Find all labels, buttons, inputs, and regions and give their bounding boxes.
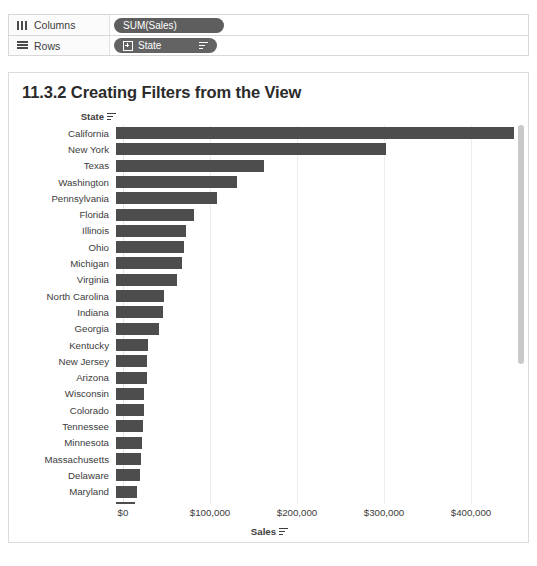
bar[interactable] bbox=[116, 225, 186, 237]
bar-row-label[interactable]: Georgia bbox=[9, 323, 116, 334]
bar-row-label[interactable]: New Jersey bbox=[9, 356, 116, 367]
bar-row[interactable]: Arizona bbox=[9, 370, 529, 386]
bar-row-label[interactable]: Delaware bbox=[9, 470, 116, 481]
bar-row[interactable]: Virginia bbox=[9, 272, 529, 288]
bar-row[interactable]: New York bbox=[9, 141, 529, 157]
bar-row-label[interactable]: Washington bbox=[9, 177, 116, 188]
bar-track bbox=[116, 190, 529, 206]
x-axis-tick-label: $200,000 bbox=[277, 507, 317, 518]
page-title: 11.3.2 Creating Filters from the View bbox=[22, 83, 301, 102]
bar-row[interactable]: Washington bbox=[9, 174, 529, 190]
bar[interactable] bbox=[116, 404, 144, 416]
columns-shelf-dropzone[interactable]: SUM(Sales) bbox=[109, 15, 528, 35]
bar-row-label[interactable]: Virginia bbox=[9, 274, 116, 285]
pill-state[interactable]: State bbox=[114, 38, 217, 53]
bar[interactable] bbox=[116, 209, 194, 221]
x-axis-title[interactable]: Sales bbox=[9, 526, 529, 537]
bar-row-label[interactable]: California bbox=[9, 128, 116, 139]
bar-row-label[interactable]: Florida bbox=[9, 209, 116, 220]
bar-row-label[interactable]: Colorado bbox=[9, 405, 116, 416]
bar[interactable] bbox=[116, 176, 237, 188]
bar-row-label[interactable]: Tennessee bbox=[9, 421, 116, 432]
bar[interactable] bbox=[116, 388, 144, 400]
rows-shelf[interactable]: Rows State bbox=[8, 35, 529, 56]
bar-row-label[interactable]: Kentucky bbox=[9, 340, 116, 351]
bar-track bbox=[116, 141, 529, 157]
bar-row[interactable]: Maryland bbox=[9, 484, 529, 500]
x-axis[interactable]: $0$100,000$200,000$300,000$400,000 Sales bbox=[9, 504, 529, 543]
bar-track bbox=[116, 451, 529, 467]
bar[interactable] bbox=[116, 257, 182, 269]
bar-row-label[interactable]: North Carolina bbox=[9, 291, 116, 302]
bar-row[interactable]: Georgia bbox=[9, 321, 529, 337]
pill-sum-sales-label: SUM(Sales) bbox=[123, 20, 177, 31]
bar[interactable] bbox=[116, 469, 140, 481]
x-axis-tick-label: $400,000 bbox=[451, 507, 491, 518]
bar-row[interactable]: Colorado bbox=[9, 402, 529, 418]
bar-row[interactable]: Texas bbox=[9, 158, 529, 174]
bar[interactable] bbox=[116, 192, 217, 204]
bar-row-label[interactable]: Pennsylvania bbox=[9, 193, 116, 204]
pill-state-label: State bbox=[138, 40, 161, 51]
bar-row[interactable]: California bbox=[9, 125, 529, 141]
bar[interactable] bbox=[116, 306, 163, 318]
bar-track bbox=[116, 272, 529, 288]
bar[interactable] bbox=[116, 437, 142, 449]
bar-row[interactable]: Indiana bbox=[9, 304, 529, 320]
bar-row-label[interactable]: Illinois bbox=[9, 225, 116, 236]
bar-row-label[interactable]: New York bbox=[9, 144, 116, 155]
bar-row-label[interactable]: Wisconsin bbox=[9, 388, 116, 399]
bar-row[interactable]: Illinois bbox=[9, 223, 529, 239]
bar[interactable] bbox=[116, 274, 177, 286]
sort-descending-icon[interactable] bbox=[279, 528, 288, 536]
sort-descending-icon[interactable] bbox=[107, 113, 116, 121]
bar[interactable] bbox=[116, 290, 164, 302]
bar-row-label[interactable]: Massachusetts bbox=[9, 454, 116, 465]
bar-row-label[interactable]: Michigan bbox=[9, 258, 116, 269]
expand-plus-icon[interactable] bbox=[123, 41, 133, 51]
bar-row[interactable]: Michigan bbox=[9, 255, 529, 271]
bar-row-label[interactable]: Indiana bbox=[9, 307, 116, 318]
bar-track bbox=[116, 207, 529, 223]
row-header-state[interactable]: State bbox=[9, 111, 116, 122]
bar[interactable] bbox=[116, 486, 137, 498]
columns-shelf[interactable]: Columns SUM(Sales) bbox=[8, 14, 529, 35]
bar-row-label[interactable]: Ohio bbox=[9, 242, 116, 253]
bar-row[interactable]: Tennessee bbox=[9, 418, 529, 434]
bar[interactable] bbox=[116, 143, 386, 155]
bar-row[interactable]: Delaware bbox=[9, 467, 529, 483]
bar[interactable] bbox=[116, 323, 159, 335]
bar-row[interactable]: North Carolina bbox=[9, 288, 529, 304]
bar-row[interactable]: New Jersey bbox=[9, 353, 529, 369]
columns-icon bbox=[17, 21, 28, 30]
bar-row-label[interactable]: Maryland bbox=[9, 486, 116, 497]
bar-row[interactable]: Wisconsin bbox=[9, 386, 529, 402]
bar-row[interactable]: Kentucky bbox=[9, 337, 529, 353]
bar[interactable] bbox=[116, 127, 514, 139]
pill-sum-sales[interactable]: SUM(Sales) bbox=[114, 18, 224, 33]
bar[interactable] bbox=[116, 339, 148, 351]
bar-track bbox=[116, 223, 529, 239]
bar-row[interactable]: Minnesota bbox=[9, 435, 529, 451]
bar[interactable] bbox=[116, 241, 184, 253]
bar-row-label[interactable]: Texas bbox=[9, 160, 116, 171]
bar-row[interactable]: Massachusetts bbox=[9, 451, 529, 467]
bar[interactable] bbox=[116, 160, 264, 172]
bar[interactable] bbox=[116, 453, 141, 465]
bar-track bbox=[116, 370, 529, 386]
vertical-scrollbar[interactable] bbox=[517, 125, 525, 504]
bar-row[interactable]: Ohio bbox=[9, 239, 529, 255]
bar-row-label[interactable]: Minnesota bbox=[9, 437, 116, 448]
columns-label-text: Columns bbox=[34, 19, 75, 31]
bar[interactable] bbox=[116, 420, 143, 432]
bar-track bbox=[116, 239, 529, 255]
bar-row[interactable]: Florida bbox=[9, 207, 529, 223]
sort-descending-icon[interactable] bbox=[199, 42, 208, 50]
bar-row[interactable]: Pennsylvania bbox=[9, 190, 529, 206]
bar[interactable] bbox=[116, 372, 147, 384]
vertical-scrollbar-thumb[interactable] bbox=[518, 125, 524, 364]
x-axis-title-label: Sales bbox=[251, 526, 276, 537]
bar-row-label[interactable]: Arizona bbox=[9, 372, 116, 383]
rows-shelf-dropzone[interactable]: State bbox=[109, 36, 528, 55]
bar[interactable] bbox=[116, 355, 147, 367]
